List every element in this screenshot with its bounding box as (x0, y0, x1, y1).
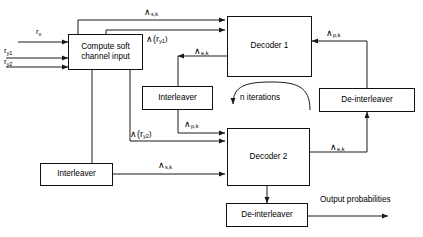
wire-lambda-pk-decoder1 (312, 41, 367, 88)
block-deinterleaver-right[interactable]: De-interleaver (319, 88, 415, 112)
wire-lambda-sk-decoder1 (78, 20, 225, 34)
label-lambda-pk-right: ∧p,k (326, 27, 340, 37)
label-lambda-ek-decoder2: ∧e,k (330, 141, 344, 151)
block-interleaver-bottom[interactable]: Interleaver (40, 163, 113, 186)
block-deinterleaver-bottom[interactable]: De-interleaver (226, 203, 308, 227)
block-decoder-2[interactable]: Decoder 2 (227, 128, 310, 186)
label-output-probabilities: Output probabilities (320, 195, 391, 204)
label-n-iterations: n iterations (240, 93, 280, 102)
label-lambda-ry1: ∧(ry1) (146, 33, 167, 43)
decoder-1-label: Decoder 1 (251, 41, 289, 51)
label-lambda-pk-mid: ∧p,k (184, 118, 198, 128)
label-lambda-ek-decoder1: ∧e,k (194, 45, 208, 55)
decoder-2-label: Decoder 2 (250, 152, 288, 162)
label-ry2: ry2 (4, 57, 12, 66)
interleaver-bottom-label: Interleaver (57, 169, 96, 179)
turbo-decoder-diagram: Compute softchannel input Decoder 1 Deco… (0, 0, 423, 237)
label-lambda-sk-top: ∧s,k (144, 6, 158, 16)
block-compute-soft-channel-input[interactable]: Compute softchannel input (68, 34, 143, 70)
deinterleaver-bottom-label: De-interleaver (241, 210, 292, 220)
interleaver-middle-label: Interleaver (158, 93, 197, 103)
label-ry1: ry1 (4, 46, 12, 55)
block-decoder-1[interactable]: Decoder 1 (227, 16, 312, 77)
label-lambda-sk-bottom: ∧s,k (158, 159, 172, 169)
block-interleaver-middle[interactable]: Interleaver (142, 86, 213, 110)
compute-soft-label: Compute softchannel input (81, 42, 130, 63)
label-rx: rx (36, 27, 41, 36)
label-lambda-ry2: ∧(ry2) (130, 128, 151, 138)
deinterleaver-right-label: De-interleaver (341, 95, 392, 105)
